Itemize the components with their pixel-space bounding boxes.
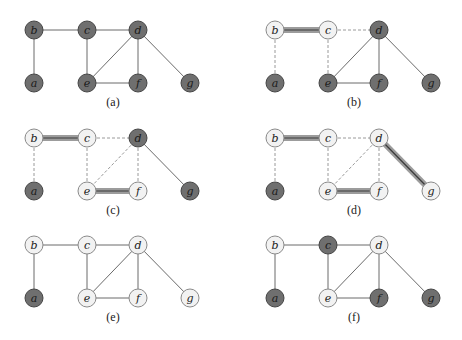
node-c: c xyxy=(319,129,337,147)
edge-d-g xyxy=(379,245,431,298)
node-label: b xyxy=(30,24,37,37)
node-c: c xyxy=(319,21,337,39)
node-label: g xyxy=(427,185,434,198)
node-label: e xyxy=(84,77,91,90)
edge-d-e xyxy=(328,245,379,298)
edge-d-e xyxy=(328,30,379,83)
graph-panel-d: abcdefg xyxy=(266,129,440,200)
node-d: d xyxy=(129,21,147,39)
node-a: a xyxy=(266,289,284,307)
node-label: g xyxy=(186,77,193,90)
node-label: d xyxy=(375,239,382,252)
node-label: d xyxy=(134,239,141,252)
node-e: e xyxy=(78,289,96,307)
node-f: f xyxy=(370,289,388,307)
node-label: d xyxy=(134,24,141,37)
node-e: e xyxy=(78,74,96,92)
node-e: e xyxy=(78,182,96,200)
node-label: g xyxy=(427,292,434,305)
node-label: c xyxy=(325,132,331,145)
edge-d-e xyxy=(87,30,138,83)
node-label: a xyxy=(31,292,38,305)
node-b: b xyxy=(25,129,43,147)
panel-caption: (c) xyxy=(106,203,119,217)
node-d: d xyxy=(129,236,147,254)
node-b: b xyxy=(25,236,43,254)
node-a: a xyxy=(266,74,284,92)
node-label: c xyxy=(84,24,90,37)
node-label: b xyxy=(30,132,37,145)
edge-d-g xyxy=(138,30,190,83)
node-c: c xyxy=(78,129,96,147)
node-label: a xyxy=(272,292,279,305)
node-label: b xyxy=(271,132,278,145)
panel-caption: (f) xyxy=(348,310,360,324)
node-f: f xyxy=(129,74,147,92)
node-label: g xyxy=(427,77,434,90)
node-label: b xyxy=(30,239,37,252)
node-e: e xyxy=(319,182,337,200)
node-b: b xyxy=(266,129,284,147)
node-d: d xyxy=(370,129,388,147)
node-label: c xyxy=(84,132,90,145)
node-c: c xyxy=(319,236,337,254)
node-d: d xyxy=(129,129,147,147)
node-d: d xyxy=(370,236,388,254)
node-a: a xyxy=(25,74,43,92)
node-e: e xyxy=(319,289,337,307)
removed-edge-d-e xyxy=(87,138,138,191)
node-label: e xyxy=(325,185,332,198)
edge-d-e xyxy=(87,245,138,298)
node-label: d xyxy=(134,132,141,145)
panel-caption: (d) xyxy=(347,203,361,217)
edge-d-g xyxy=(379,30,431,83)
node-b: b xyxy=(266,21,284,39)
node-c: c xyxy=(78,21,96,39)
node-g: g xyxy=(181,74,199,92)
graph-panel-c: abcdefg xyxy=(25,129,199,200)
node-f: f xyxy=(370,74,388,92)
node-g: g xyxy=(422,74,440,92)
node-label: d xyxy=(375,132,382,145)
node-label: a xyxy=(272,185,279,198)
node-label: c xyxy=(325,239,331,252)
node-a: a xyxy=(266,182,284,200)
node-a: a xyxy=(25,182,43,200)
node-c: c xyxy=(78,236,96,254)
node-label: e xyxy=(84,292,91,305)
panel-caption: (b) xyxy=(347,95,361,109)
node-d: d xyxy=(370,21,388,39)
edge-d-g xyxy=(138,138,190,191)
node-label: e xyxy=(84,185,91,198)
panel-caption: (e) xyxy=(106,310,119,324)
node-g: g xyxy=(422,289,440,307)
graph-panel-f: abcdefg xyxy=(266,236,440,307)
graph-matching-figure: abcdefg(a)abcdefg(b)abcdefg(c)abcdefg(d)… xyxy=(0,0,462,340)
node-label: e xyxy=(325,77,332,90)
node-label: a xyxy=(31,77,38,90)
node-a: a xyxy=(25,289,43,307)
node-e: e xyxy=(319,74,337,92)
node-f: f xyxy=(129,182,147,200)
node-label: d xyxy=(375,24,382,37)
node-label: a xyxy=(272,77,279,90)
node-label: c xyxy=(325,24,331,37)
node-label: a xyxy=(31,185,38,198)
node-label: b xyxy=(271,24,278,37)
graph-panel-b: abcdefg xyxy=(266,21,440,92)
node-label: e xyxy=(325,292,332,305)
removed-edge-d-e xyxy=(328,138,379,191)
matched-edge-core-d-g xyxy=(379,138,431,191)
node-b: b xyxy=(25,21,43,39)
node-label: g xyxy=(186,292,193,305)
node-g: g xyxy=(181,182,199,200)
node-g: g xyxy=(422,182,440,200)
edge-d-g xyxy=(138,245,190,298)
node-label: b xyxy=(271,239,278,252)
panel-caption: (a) xyxy=(106,95,119,109)
node-label: c xyxy=(84,239,90,252)
node-f: f xyxy=(129,289,147,307)
node-b: b xyxy=(266,236,284,254)
node-f: f xyxy=(370,182,388,200)
graph-panel-a: abcdefg xyxy=(25,21,199,92)
